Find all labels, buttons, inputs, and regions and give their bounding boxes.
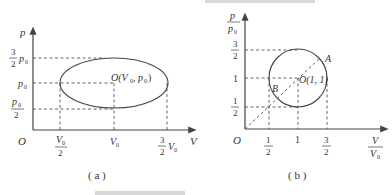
svg-text:3: 3 — [160, 135, 165, 145]
circle-center-label: O(1, 1) — [299, 74, 329, 86]
svg-text:2: 2 — [160, 147, 165, 157]
caption-b: ( b ) — [288, 169, 307, 182]
ellipse-center-label: O(V 0 , p 0 ) — [111, 72, 151, 84]
svg-text:p: p — [229, 10, 235, 21]
y-tick-b-1-2: 1 2 — [231, 96, 239, 118]
svg-text:2: 2 — [14, 110, 19, 120]
y-axis-label-b: p p 0 — [227, 10, 240, 35]
cropped-title-fragment — [205, 0, 315, 3]
svg-text:0: 0 — [24, 84, 27, 90]
point-b-label: B — [272, 83, 278, 94]
point-a-label: A — [324, 53, 332, 64]
svg-text:2: 2 — [233, 108, 238, 118]
y-axis-label-a: p — [19, 26, 26, 38]
svg-text:1: 1 — [266, 135, 271, 145]
svg-text:p: p — [11, 96, 17, 107]
caption-a: ( a ) — [88, 169, 106, 182]
svg-text:3: 3 — [11, 47, 16, 57]
svg-text:0: 0 — [174, 147, 177, 153]
svg-text:0: 0 — [62, 140, 65, 146]
svg-text:0: 0 — [116, 142, 119, 148]
x-tick-b-1: 1 — [295, 134, 300, 145]
svg-text:2: 2 — [11, 59, 16, 69]
y-tick-b-3-2: 3 2 — [231, 39, 239, 61]
svg-text:0: 0 — [377, 154, 380, 160]
y-tick-3-2-p0: 3 2 p 0 — [9, 47, 28, 69]
origin-label-a: O — [18, 135, 26, 147]
x-tick-v0-2: V 0 2 — [55, 134, 67, 158]
svg-text:V: V — [372, 135, 380, 146]
svg-text:2: 2 — [233, 51, 238, 61]
diagram-canvas: p V O 3 2 p 0 p 0 p 0 2 V 0 2 — [0, 0, 392, 195]
svg-text:0: 0 — [18, 102, 21, 108]
x-axis-label-b: V V 0 — [368, 135, 383, 160]
svg-text:p: p — [17, 78, 23, 89]
y-tick-p0-2: p 0 2 — [11, 96, 24, 120]
svg-text:0: 0 — [234, 29, 237, 35]
svg-text:2: 2 — [266, 147, 271, 157]
x-tick-3-2-v0: 3 2 V 0 — [158, 135, 177, 157]
origin-label-b: O — [233, 134, 241, 146]
svg-text:1: 1 — [233, 96, 238, 106]
svg-text:O(V: O(V — [111, 72, 130, 84]
svg-text:0: 0 — [144, 78, 147, 84]
figure-a: p V O 3 2 p 0 p 0 p 0 2 V 0 2 — [9, 26, 198, 182]
cropped-caption-fragment — [95, 191, 185, 195]
svg-text:3: 3 — [233, 39, 238, 49]
figure-b: p p 0 V V 0 O 3 2 1 1 2 1 2 — [227, 10, 385, 182]
diagonal-o-a — [245, 58, 320, 129]
svg-text:p: p — [18, 53, 24, 64]
svg-text:, p: , p — [133, 72, 143, 83]
svg-text:3: 3 — [324, 135, 329, 145]
x-axis-label-a: V — [190, 135, 198, 147]
y-tick-b-1: 1 — [233, 73, 238, 84]
svg-text:0: 0 — [25, 59, 28, 65]
x-tick-b-1-2: 1 2 — [264, 135, 273, 157]
svg-text:2: 2 — [324, 147, 329, 157]
y-tick-p0: p 0 — [17, 78, 27, 90]
svg-text:p: p — [227, 23, 233, 34]
x-tick-b-3-2: 3 2 — [322, 135, 331, 157]
x-tick-v0: V 0 — [110, 136, 119, 148]
svg-text:): ) — [148, 72, 151, 84]
svg-text:2: 2 — [58, 148, 63, 158]
